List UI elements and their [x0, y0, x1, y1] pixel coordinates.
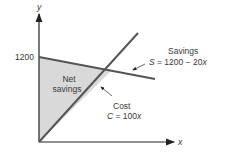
cost-equation: C = 100x: [107, 111, 141, 121]
y-axis-label: y: [37, 2, 41, 12]
savings-eq-rest: = 1200 − 20: [155, 57, 203, 67]
savings-eq-x: x: [202, 57, 206, 67]
cost-title: Cost: [113, 101, 130, 111]
x-axis-label: x: [178, 137, 182, 147]
net-savings-label: Net savings: [52, 74, 86, 94]
y-tick-1200: 1200: [15, 52, 34, 62]
cost-pointer-arrow: [101, 87, 112, 96]
diagram-canvas: [0, 0, 226, 153]
net-label-line2: savings: [48, 84, 86, 94]
cost-eq-x: x: [137, 111, 141, 121]
savings-equation: S = 1200 − 20x: [149, 57, 207, 67]
net-label-line1: Net: [52, 74, 86, 84]
cost-eq-rest: = 100: [113, 111, 137, 121]
savings-title: Savings: [168, 46, 198, 56]
savings-pointer-arrow: [133, 64, 145, 70]
